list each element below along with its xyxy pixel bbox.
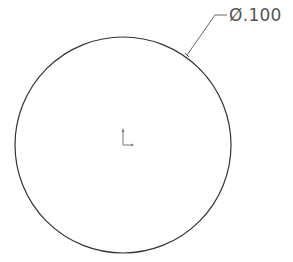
leader-line [185,15,227,57]
sketch-canvas [0,0,293,262]
origin-axes-icon [122,128,135,147]
diameter-dimension-label[interactable]: Ø.100 [229,5,282,25]
